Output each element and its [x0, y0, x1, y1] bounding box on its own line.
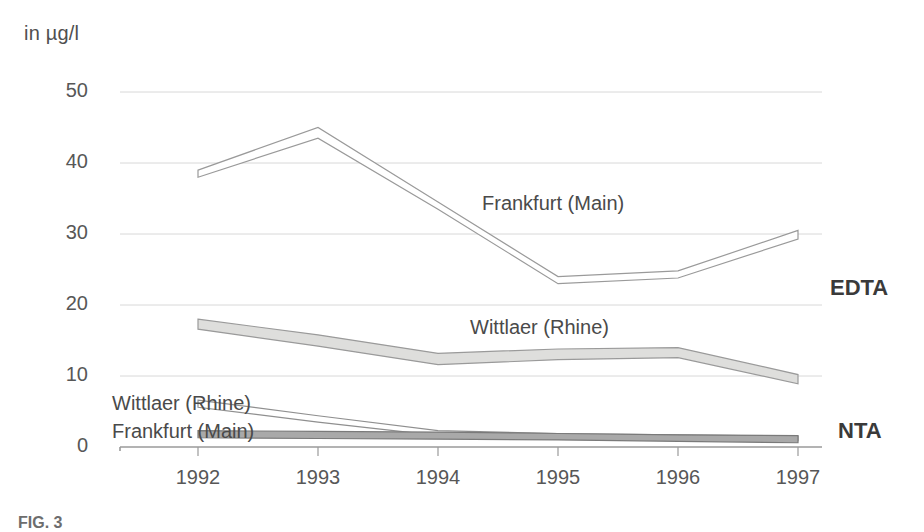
figure-root: in µg/l 01020304050 19921993199419951996… — [0, 0, 924, 532]
series-label-edta-wittlaer: Wittlaer (Rhine) — [470, 316, 609, 339]
group-label-nta: NTA — [838, 418, 882, 444]
y-tick-label: 50 — [34, 79, 88, 102]
axis-lines — [120, 447, 822, 451]
x-tick-label: 1996 — [638, 466, 718, 489]
series-label-nta-frankfurt: Frankfurt (Main) — [112, 420, 254, 443]
chart-canvas — [0, 0, 924, 532]
y-tick-label: 0 — [34, 434, 88, 457]
series-label-nta-wittlaer: Wittlaer (Rhine) — [112, 392, 251, 415]
x-tick-label: 1994 — [398, 466, 478, 489]
y-tick-label: 20 — [34, 292, 88, 315]
y-tick-label: 10 — [34, 363, 88, 386]
x-axis-ticks — [198, 447, 798, 456]
x-tick-label: 1993 — [278, 466, 358, 489]
x-tick-label: 1995 — [518, 466, 598, 489]
y-tick-label: 30 — [34, 221, 88, 244]
series-label-edta-frankfurt: Frankfurt (Main) — [482, 192, 624, 215]
x-tick-label: 1997 — [758, 466, 838, 489]
group-label-edta: EDTA — [830, 275, 888, 301]
series-band-3 — [198, 431, 798, 443]
figure-caption: FIG. 3 — [18, 514, 62, 532]
y-tick-label: 40 — [34, 150, 88, 173]
x-tick-label: 1992 — [158, 466, 238, 489]
series-bands — [198, 128, 798, 443]
